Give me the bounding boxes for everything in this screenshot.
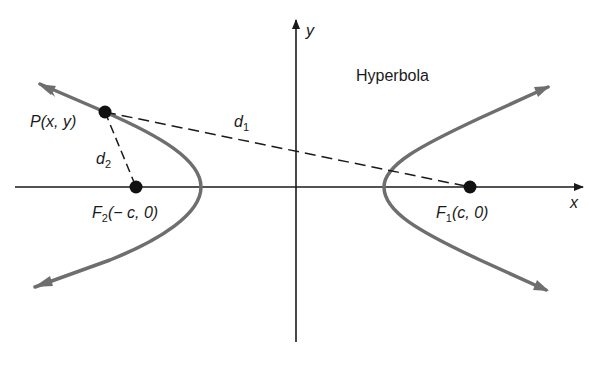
x-axis-label: x: [569, 194, 579, 211]
focus-f2-label: F2(− c, 0): [92, 204, 158, 224]
focus-f2: [130, 181, 143, 194]
d2-label: d2: [96, 150, 111, 170]
arrow-icon: [534, 86, 550, 97]
arrow-icon: [533, 280, 549, 291]
arrow-icon: [34, 276, 53, 287]
point-p-label: P(x, y): [30, 113, 76, 130]
focus-f1-label: F1(c, 0): [436, 204, 488, 224]
d1-label: d1: [234, 113, 249, 133]
focus-f1: [464, 181, 477, 194]
y-axis-label: y: [305, 22, 315, 39]
title-label: Hyperbola: [356, 67, 429, 84]
point-p: [99, 106, 112, 119]
hyperbola-diagram: Hyperbola y x P(x, y) d1 d2 F2(− c, 0) F…: [0, 0, 589, 367]
